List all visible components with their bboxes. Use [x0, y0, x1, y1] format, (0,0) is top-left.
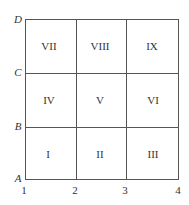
cell-iii: III — [148, 148, 159, 160]
x-label-3: 3 — [122, 184, 128, 196]
cell-viii: VIII — [91, 40, 110, 52]
cell-vii: VII — [41, 40, 56, 52]
grid-hline-c — [26, 73, 178, 74]
cell-ii: II — [96, 148, 103, 160]
y-label-a: A — [15, 172, 22, 184]
y-label-b: B — [15, 120, 22, 132]
y-label-c: C — [14, 66, 21, 78]
x-label-1: 1 — [21, 184, 27, 196]
x-label-4: 4 — [175, 184, 181, 196]
grid-vline-2 — [76, 20, 77, 179]
grid-vline-3 — [126, 20, 127, 179]
cell-i: I — [46, 148, 50, 160]
x-label-2: 2 — [72, 184, 78, 196]
cell-vi: VI — [147, 94, 159, 106]
cell-v: V — [96, 94, 104, 106]
cell-iv: IV — [43, 94, 55, 106]
cell-ix: IX — [146, 40, 158, 52]
y-label-d: D — [14, 13, 22, 25]
grid-hline-b — [26, 127, 178, 128]
